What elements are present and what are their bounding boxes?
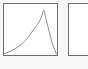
curve-chart [4,4,57,55]
curve-line [5,10,57,54]
empty-chart-area [69,4,88,55]
panel-row [0,0,88,60]
thumbnail-strip [0,0,88,69]
curve-thumbnail-panel[interactable] [3,3,58,56]
empty-thumbnail-panel[interactable] [68,3,88,56]
